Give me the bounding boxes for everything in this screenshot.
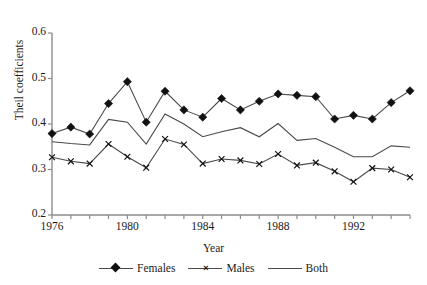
x-marker [143,165,149,171]
x-tick-label: 1992 [330,220,376,232]
x-marker [162,136,168,142]
diamond-marker [48,129,56,137]
diamond-marker [142,118,150,126]
x-tick-label: 1980 [104,220,150,232]
chart-legend: Females×MalesBoth [0,262,427,274]
y-tick-label: 0.3 [12,162,46,174]
diamond-marker [406,87,414,95]
x-marker [332,168,338,174]
y-tick-label: 0.6 [12,25,46,37]
legend-item-females[interactable]: Females [99,262,175,274]
plot-area [52,33,410,215]
line-only [268,263,302,274]
legend-label: Both [306,262,328,274]
legend-item-males[interactable]: ×Males [188,262,254,274]
series-line-both [52,114,410,157]
y-tick-label: 0.4 [12,116,46,128]
legend-label: Males [226,262,254,274]
chart-canvas [52,33,410,215]
series-line-males [52,139,410,182]
legend-item-both[interactable]: Both [268,262,328,274]
y-tick-label: 0.2 [12,207,46,219]
x-marker [407,174,413,180]
x-marker [106,141,112,147]
diamond-marker [349,111,357,119]
x-marker [351,179,357,185]
x-marker [275,151,281,157]
x-tick-label: 1976 [29,220,75,232]
x-marker [124,154,130,160]
diamond-marker [67,123,75,131]
diamond-marker [86,130,94,138]
diamond-marker [255,97,263,105]
chart-figure: Theil coefficients Year 0.60.50.40.30.2 … [0,0,427,285]
legend-label: Females [137,262,175,274]
x-marker [181,142,187,148]
x-tick-label: 1988 [255,220,301,232]
diamond-marker [111,263,121,273]
x-tick-label: 1984 [180,220,226,232]
x-axis-label: Year [0,242,427,254]
series-line-females [52,82,410,134]
x-marker: × [188,263,222,274]
diamond-marker [99,263,133,274]
diamond-marker [236,106,244,114]
y-tick-label: 0.5 [12,71,46,83]
x-marker: × [201,263,210,274]
diamond-marker [293,91,301,99]
diamond-marker [274,90,282,98]
